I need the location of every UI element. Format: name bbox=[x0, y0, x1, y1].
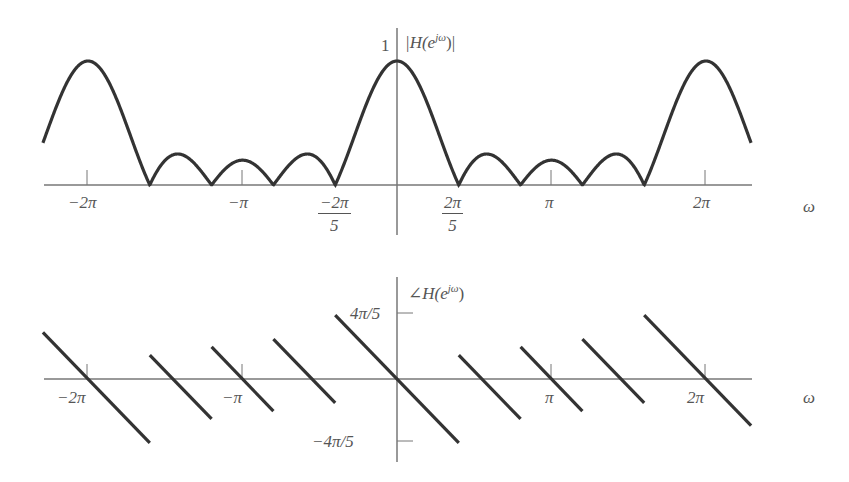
bottom-label-m2pi: −2π bbox=[57, 389, 86, 406]
top-xlabel-omega: ω bbox=[803, 198, 815, 215]
top-label-2pi5-num: 2π bbox=[442, 194, 463, 214]
top-label-2pi5: 2π 5 bbox=[442, 194, 463, 234]
phase-segment bbox=[150, 355, 212, 419]
bottom-y-tick-4pi5: 4π/5 bbox=[350, 305, 380, 322]
phase-segment bbox=[273, 339, 335, 403]
bottom-y-tick-m4pi5: −4π/5 bbox=[312, 433, 354, 450]
top-ylabel-prefix: |H(e bbox=[405, 33, 435, 52]
top-label-pi: π bbox=[545, 194, 554, 211]
top-ylabel-suffix: )| bbox=[446, 33, 455, 52]
top-label-2pi5-den: 5 bbox=[442, 214, 463, 234]
top-label-mpi: −π bbox=[228, 194, 248, 211]
top-label-m2pi5-den: 5 bbox=[318, 214, 351, 234]
top-label-m2pi5: −2π 5 bbox=[318, 194, 351, 234]
bottom-label-mpi: −π bbox=[222, 389, 242, 406]
top-ylabel-sup: jω bbox=[435, 31, 446, 43]
chart-canvas bbox=[0, 0, 849, 482]
top-y-axis-label: |H(ejω)| bbox=[405, 32, 455, 51]
bottom-ylabel-sup: jω bbox=[448, 282, 459, 294]
magnitude-plot bbox=[43, 28, 752, 235]
phase-segment bbox=[459, 355, 521, 419]
bottom-ylabel-prefix: ∠H(e bbox=[408, 284, 448, 303]
bottom-label-pi: π bbox=[545, 389, 554, 406]
bottom-xlabel-omega: ω bbox=[803, 389, 815, 406]
bottom-ylabel-suffix: ) bbox=[459, 284, 465, 303]
bottom-label-2pi: 2π bbox=[687, 389, 704, 406]
top-y-tick-1: 1 bbox=[381, 37, 390, 54]
top-label-m2pi: −2π bbox=[68, 194, 97, 211]
top-label-m2pi5-num: −2π bbox=[318, 194, 351, 214]
phase-segment bbox=[644, 315, 751, 426]
top-label-2pi: 2π bbox=[693, 194, 710, 211]
phase-segment bbox=[582, 339, 644, 403]
phase-plot bbox=[43, 277, 752, 462]
bottom-y-axis-label: ∠H(ejω) bbox=[408, 283, 464, 302]
